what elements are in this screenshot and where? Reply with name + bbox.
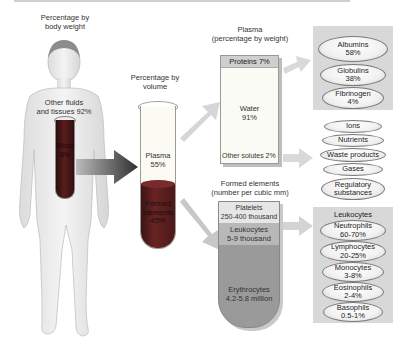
waste-products-label: Waste products [327,151,379,160]
monocytes-value: 3-8% [344,272,362,281]
ions-label: Ions [346,122,360,131]
globulins-value: 38% [345,75,360,84]
oval-neutrophils: Neutrophils 60-70% [320,220,386,241]
oval-gases: Gases [323,163,383,176]
label-formed-elements: Formed elements (number per cubic mm) [200,180,300,197]
platelets-band: Platelets 250-400 thousand [219,202,279,223]
arrow-to-leukocytes-icon [283,214,315,240]
oval-monocytes: Monocytes 3-8% [322,262,384,282]
arrow-up-right-icon [178,98,222,144]
oval-albumins: Albumins 58% [318,36,388,62]
label-blood: Blood 8% [56,142,74,159]
label-leukocytes: Leukocytes 5-9 thousand [219,226,279,243]
oval-fibrinogen: Fibrinogen 4% [322,87,384,109]
tube-formed-layer: Formed elements 45% [141,184,175,248]
neutrophils-value: 60-70% [340,231,366,240]
label-platelets: Platelets 250-400 thousand [219,204,279,221]
leukocytes-band: Leukocytes 5-9 thousand [219,223,279,245]
oval-ions: Ions [324,120,382,133]
eosinophils-value: 2-4% [344,292,362,301]
label-plasma-weight: Plasma (percentage by weight) [205,26,295,43]
label-water: Water 91% [221,105,278,122]
nutrients-label: Nutrients [338,136,368,145]
label-tube-formed: Formed elements 45% [141,200,175,226]
arrow-to-proteins-icon [283,52,313,78]
blood-test-tube: Plasma 55% Formed elements 45% [140,106,176,249]
label-other-solutes: Other solutes 2% [221,152,279,161]
oval-lymphocytes: Lymphocytes 20-25% [320,241,386,262]
oval-nutrients: Nutrients [322,134,384,147]
oval-basophils: Basophils 0.5-1% [323,302,383,322]
basophils-value: 0.5-1% [341,312,365,321]
oval-eosinophils: Eosinophils 2-4% [322,282,384,302]
oval-waste-products: Waste products [320,148,386,162]
label-other-fluids: Other fluids and tissues 92% [28,99,100,116]
fibrinogen-value: 4% [348,98,359,107]
arrow-right-icon [76,150,138,184]
lymphocytes-value: 20-25% [340,252,366,261]
label-erythrocytes: Erythrocytes 4.2-5.8 million [219,286,279,303]
arrow-down-right-icon [178,196,222,254]
leukocytes-title: Leukocytes [313,210,393,219]
label-proteins: Proteins 7% [221,56,278,68]
regulatory-label: Regulatory substances [334,181,372,198]
label-tube-plasma: Plasma 55% [141,152,175,169]
formed-elements-tube: Platelets 250-400 thousand Leukocytes 5-… [218,201,280,328]
gases-label: Gases [342,165,364,174]
oval-regulatory: Regulatory substances [321,178,385,200]
albumins-value: 58% [345,49,360,58]
oval-globulins: Globulins 38% [320,64,386,86]
plasma-composition-box: Proteins 7% Water 91% Other solutes 2% [220,55,279,164]
arrow-to-solutes-icon [283,146,315,172]
body-blood-tube: Blood 8% [55,120,75,199]
